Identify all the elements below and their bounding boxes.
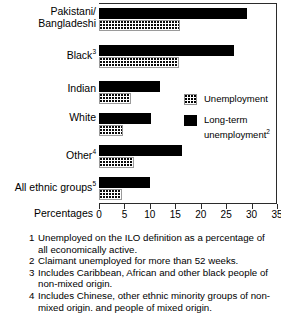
category-label-white: White bbox=[69, 112, 96, 124]
bar-unemployment bbox=[99, 125, 123, 136]
category-label-line1: Indian bbox=[67, 82, 96, 94]
bar-long-term-unemployment bbox=[99, 81, 160, 92]
footnote-ref-2: 2 bbox=[266, 128, 270, 135]
legend-swatch-long-term-icon bbox=[184, 115, 197, 126]
bar-unemployment bbox=[99, 189, 122, 200]
bar-unemployment bbox=[99, 57, 179, 68]
category-label-line1: Other bbox=[66, 149, 92, 161]
footnote-number: 2 bbox=[29, 255, 38, 267]
x-axis-tick-label: 5 bbox=[122, 209, 128, 220]
category-label-line1: Black bbox=[67, 49, 93, 61]
footnote-number: 3 bbox=[29, 267, 38, 290]
footnote-item: 3 Includes Caribbean, African and other … bbox=[29, 267, 277, 290]
chart-legend: Unemployment Long-term unemployment2 bbox=[184, 93, 270, 149]
x-axis-tick-label: 0 bbox=[96, 209, 102, 220]
x-axis-tick-label: 10 bbox=[144, 209, 155, 220]
bar-long-term-unemployment bbox=[99, 8, 247, 19]
footnote-item: 1 Unemployed on the ILO definition as a … bbox=[29, 232, 277, 255]
footnote-item: 4 Includes Chinese, other ethnic minorit… bbox=[29, 290, 277, 313]
bar-unemployment bbox=[99, 157, 134, 168]
category-label-all-ethnic-groups: All ethnic groups5 bbox=[15, 178, 96, 193]
bar-long-term-unemployment bbox=[99, 45, 234, 56]
category-label-black: Black3 bbox=[67, 46, 96, 61]
legend-item-long-term-unemployment: Long-term unemployment2 bbox=[184, 114, 270, 140]
bar-long-term-unemployment bbox=[99, 177, 150, 188]
x-axis-tick-label: 20 bbox=[195, 209, 206, 220]
legend-label-unemployment: Unemployment bbox=[204, 93, 268, 105]
x-axis-title: Percentages bbox=[0, 207, 93, 219]
category-label-indian: Indian bbox=[67, 83, 96, 95]
x-axis-tick-label: 25 bbox=[221, 209, 232, 220]
x-axis: 05101520253035 bbox=[99, 204, 277, 220]
category-label-pakistani-bangladeshi: Pakistani/ Bangladeshi bbox=[38, 6, 96, 29]
category-label-line1: All ethnic groups bbox=[15, 181, 93, 193]
category-label-line2: Bangladeshi bbox=[38, 18, 96, 30]
legend-label-line1: Long-term bbox=[204, 114, 270, 126]
footnote-ref-4: 4 bbox=[92, 148, 96, 155]
footnote-number: 1 bbox=[29, 232, 38, 255]
category-label-line1: White bbox=[69, 111, 96, 123]
x-axis-tick-label: 35 bbox=[271, 209, 281, 220]
footnote-text: Claimant unemployed for more than 52 wee… bbox=[38, 255, 277, 267]
footnote-text: Unemployed on the ILO definition as a pe… bbox=[38, 232, 277, 255]
legend-swatch-unemployment-icon bbox=[184, 94, 197, 105]
legend-label-long-term: Long-term unemployment2 bbox=[204, 114, 270, 140]
bar-unemployment bbox=[99, 20, 180, 31]
footnote-text: Includes Caribbean, African and other bl… bbox=[38, 267, 277, 290]
x-axis-tick-label: 30 bbox=[246, 209, 257, 220]
bar-unemployment bbox=[99, 93, 131, 104]
legend-label-line2: unemployment bbox=[204, 129, 266, 140]
bar-chart-figure: Pakistani/ Bangladeshi Black3 Indian Whi… bbox=[0, 0, 281, 320]
category-label-other: Other4 bbox=[66, 146, 96, 161]
footnotes-list: 1 Unemployed on the ILO definition as a … bbox=[29, 232, 277, 313]
category-label-line1: Pakistani/ bbox=[38, 6, 96, 18]
legend-label-line2-wrap: unemployment2 bbox=[204, 126, 270, 141]
footnote-item: 2 Claimant unemployed for more than 52 w… bbox=[29, 255, 277, 267]
footnote-number: 4 bbox=[29, 290, 38, 313]
x-axis-tick-label: 15 bbox=[170, 209, 181, 220]
footnote-ref-3: 3 bbox=[92, 48, 96, 55]
bar-long-term-unemployment bbox=[99, 145, 182, 156]
legend-item-unemployment: Unemployment bbox=[184, 93, 270, 105]
bar-long-term-unemployment bbox=[99, 113, 151, 124]
footnote-text: Includes Chinese, other ethnic minority … bbox=[38, 290, 277, 313]
footnote-ref-5: 5 bbox=[92, 180, 96, 187]
